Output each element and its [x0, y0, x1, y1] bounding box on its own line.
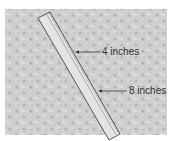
diagram-canvas — [0, 0, 170, 141]
diagram-scene: 4 inches 8 inches — [0, 0, 170, 141]
label-8-inches: 8 inches — [129, 86, 166, 96]
label-4-inches: 4 inches — [102, 47, 139, 57]
textured-background — [5, 9, 167, 135]
